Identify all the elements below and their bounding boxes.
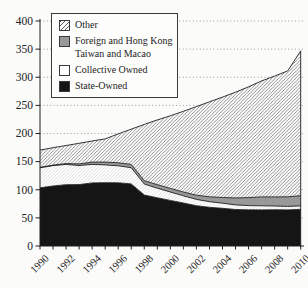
- legend-label-collective: Collective Owned: [75, 63, 147, 76]
- x-tick-label-1996: 1996: [106, 253, 129, 276]
- x-tick-label-2008: 2008: [263, 253, 286, 276]
- y-tick-label-300: 300: [16, 71, 34, 83]
- legend-swatch-other-icon: [59, 20, 70, 31]
- x-tick-label-1994: 1994: [80, 252, 103, 275]
- legend-item-other: Other: [59, 18, 173, 31]
- x-tick-label-2002: 2002: [185, 253, 208, 276]
- x-tick-label-2010: 2010: [289, 253, 308, 276]
- y-tick-label-350: 350: [16, 43, 34, 55]
- y-tick-label-100: 100: [16, 184, 34, 196]
- legend-label-other: Other: [75, 18, 98, 31]
- x-tick-label-1992: 1992: [54, 253, 77, 276]
- x-tick-label-2004: 2004: [211, 252, 234, 275]
- y-tick-label-150: 150: [16, 155, 34, 167]
- x-tick-label-1990: 1990: [28, 253, 51, 276]
- legend-label-foreign: Foreign and Hong Kong Taiwan and Macao: [75, 34, 173, 60]
- x-tick-label-2000: 2000: [159, 253, 182, 276]
- legend-swatch-foreign-icon: [59, 36, 70, 47]
- legend-item-state: State-Owned: [59, 79, 173, 92]
- y-tick-label-200: 200: [16, 127, 34, 139]
- legend-swatch-state-icon: [59, 81, 70, 92]
- legend: OtherForeign and Hong Kong Taiwan and Ma…: [51, 13, 178, 98]
- legend-swatch-collective-icon: [59, 65, 70, 76]
- y-tick-label-400: 400: [16, 15, 34, 27]
- y-tick-label-50: 50: [22, 212, 34, 224]
- legend-item-collective: Collective Owned: [59, 63, 173, 76]
- stacked-area-figure: 0501001502002503003504001990199219941996…: [0, 0, 308, 288]
- y-tick-label-250: 250: [16, 99, 34, 111]
- x-tick-label-2006: 2006: [237, 253, 260, 276]
- legend-label-state: State-Owned: [75, 79, 127, 92]
- y-tick-label-0: 0: [27, 240, 33, 252]
- legend-item-foreign: Foreign and Hong Kong Taiwan and Macao: [59, 34, 173, 60]
- x-tick-label-1998: 1998: [133, 253, 156, 276]
